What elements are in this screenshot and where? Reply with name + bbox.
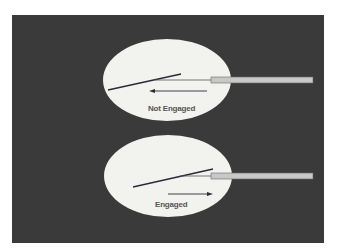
engaged-diagram <box>104 135 313 217</box>
diagram-canvas <box>0 0 338 251</box>
not-engaged-label: Not Engaged <box>148 104 195 113</box>
not-engaged-diagram <box>103 39 313 121</box>
rod <box>211 173 313 179</box>
rod <box>211 77 313 83</box>
engaged-label: Engaged <box>155 200 187 209</box>
